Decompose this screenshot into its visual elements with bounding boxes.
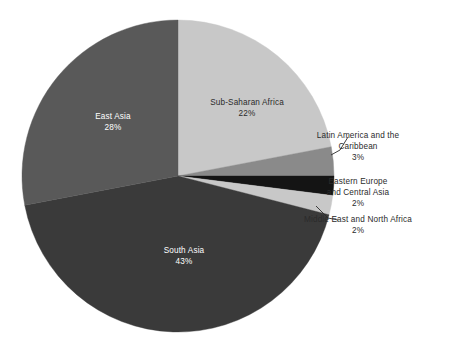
slice-label-name-eastern-europe: Eastern Europe — [329, 177, 388, 186]
slice-label-name2-eastern-europe: and Central Asia — [327, 188, 390, 197]
slice-label-value-middle-east-and-north-africa: 2% — [352, 226, 364, 235]
pie-chart-container: Sub-Saharan Africa22%Latin America and t… — [0, 0, 460, 353]
slice-label-value-eastern-europe: 2% — [352, 199, 364, 208]
slice-label-value-south-asia: 43% — [176, 257, 193, 266]
pie-slices-group — [22, 20, 334, 332]
slice-label-value-east-asia: 28% — [105, 123, 122, 132]
slice-label-name-middle-east-and-north-africa: Middle East and North Africa — [304, 215, 412, 224]
slice-label-name-east-asia: East Asia — [95, 112, 131, 121]
slice-label-value-sub-saharan-africa: 22% — [239, 109, 256, 118]
slice-label-value-latin-america-and-the: 3% — [352, 153, 364, 162]
slice-label-name-south-asia: South Asia — [164, 246, 205, 255]
slice-label-name-sub-saharan-africa: Sub-Saharan Africa — [210, 98, 284, 107]
slice-label-name2-latin-america-and-the: Caribbean — [338, 142, 377, 151]
slice-label-name-latin-america-and-the: Latin America and the — [317, 131, 400, 140]
pie-chart-svg: Sub-Saharan Africa22%Latin America and t… — [0, 0, 460, 353]
